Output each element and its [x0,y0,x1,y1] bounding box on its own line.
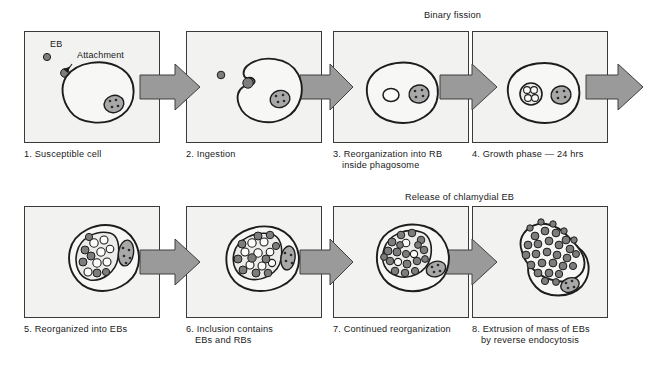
annotation-attachment: Attachment [77,50,124,60]
caption-panel-8: 8. Extrusion of mass of EBsby reverse en… [472,324,622,347]
caption-panel-2: 2. Ingestion [186,149,326,160]
caption-panel-8-line-1: 8. Extrusion of mass of EBs [472,324,590,334]
panel-7-artwork [377,225,449,291]
arrow-1-to-2 [140,64,200,110]
phagosome-with-reticulate-body [383,89,399,102]
arrow-4-to-row2 [586,64,643,110]
caption-panel-3-line-2: inside phagosome [333,160,419,171]
figure-canvas: Binary fission Release of chlamydial EB [0,0,657,366]
panel-4-artwork [508,63,580,123]
caption-panel-3-line-1: 3. Reorganization into RB [333,149,442,159]
panel-5-artwork [69,225,139,291]
arrow-6-to-7 [300,239,353,285]
panel-2-artwork [217,59,302,122]
caption-panel-3: 3. Reorganization into RBinside phagosom… [333,149,469,172]
caption-panel-5: 5. Reorganized into EBs [24,324,174,335]
host-cell-membrane [238,59,302,122]
caption-panel-1: 1. Susceptible cell [24,149,174,160]
engulfed-elementary-body [243,78,253,88]
panel-3-artwork [367,63,438,123]
inclusion-with-dividing-rbs [520,83,542,105]
caption-panel-6-line-1: 6. Inclusion contains [186,324,273,334]
host-cell-membrane [63,62,134,122]
caption-panel-6-line-2: EBs and RBs [186,335,252,346]
panel-8-artwork [521,219,589,296]
arrow-2-to-3 [300,64,353,110]
caption-panel-8-line-2: by reverse endocytosis [472,335,579,346]
panel-1-artwork [43,53,133,122]
caption-panel-7: 7. Continued reorganization [333,324,473,335]
caption-panel-6: 6. Inclusion containsEBs and RBs [186,324,326,347]
free-elementary-body [217,71,225,79]
panel-6-artwork [226,226,298,290]
caption-panel-4: 4. Growth phase — 24 hrs [472,149,622,160]
arrow-3-to-4 [440,64,497,110]
arrow-5-to-6 [140,239,200,285]
annotation-eb: EB [50,39,62,49]
free-elementary-body [43,53,50,60]
